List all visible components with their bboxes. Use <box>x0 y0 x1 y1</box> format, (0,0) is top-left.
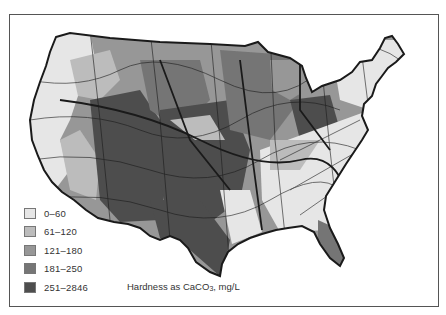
legend-swatch <box>24 282 36 293</box>
legend-item-181-250: 181–250 <box>24 260 88 279</box>
legend-swatch <box>24 263 36 274</box>
legend-item-121-180: 121–180 <box>24 241 88 260</box>
legend-item-61-120: 61–120 <box>24 223 88 242</box>
legend-label: 251–2846 <box>44 282 88 293</box>
legend-swatch <box>24 245 36 256</box>
legend-label: 121–180 <box>44 245 82 256</box>
caption-text: Hardness as CaCO <box>127 281 209 292</box>
legend-item-251-2846: 251–2846 <box>24 278 88 297</box>
legend-label: 0–60 <box>44 208 66 219</box>
map-caption: Hardness as CaCO3, mg/L <box>127 281 240 292</box>
legend-item-0-60: 0–60 <box>24 204 88 223</box>
legend-swatch <box>24 226 36 237</box>
legend: 0–60 61–120 121–180 181–250 251–2846 <box>24 204 88 297</box>
legend-label: 181–250 <box>44 263 82 274</box>
legend-label: 61–120 <box>44 226 77 237</box>
legend-swatch <box>24 208 36 219</box>
caption-suffix: , mg/L <box>213 281 239 292</box>
